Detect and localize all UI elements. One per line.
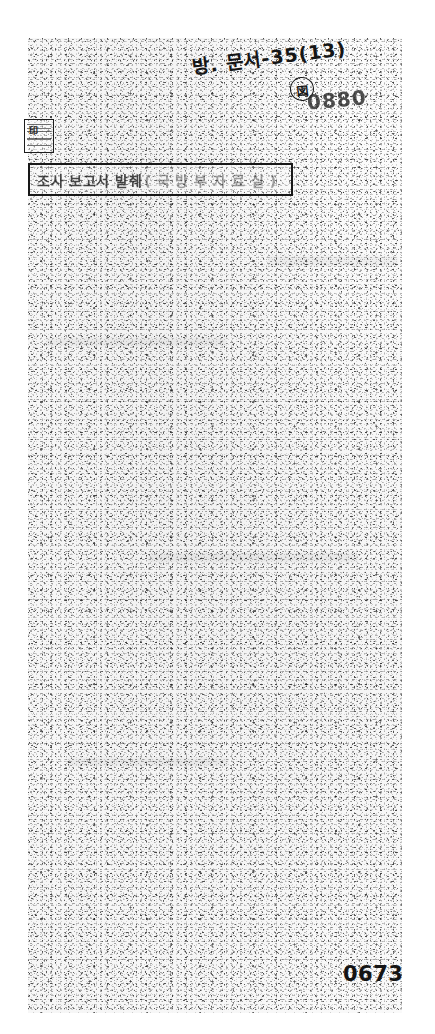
document-page: 방. 문서-35(13) 図 0880 印 조사 보고서 발췌 ( 국 방 부 … (0, 0, 435, 1034)
title-box: 조사 보고서 발췌 ( 국 방 부 자 료 실 ) (28, 163, 293, 196)
smudge-band (46, 338, 226, 346)
title-box-parenthetical: ( 국 방 부 자 료 실 ) (144, 170, 276, 190)
registry-seal-stamp: 印 (24, 119, 54, 153)
title-box-heading: 조사 보고서 발췌 (37, 170, 142, 190)
smudge-band (268, 256, 398, 266)
seal-glyph: 印 (29, 127, 37, 136)
archive-page-number: 0673 (343, 962, 403, 986)
smudge-band (148, 553, 358, 562)
smudge-band (68, 758, 228, 766)
